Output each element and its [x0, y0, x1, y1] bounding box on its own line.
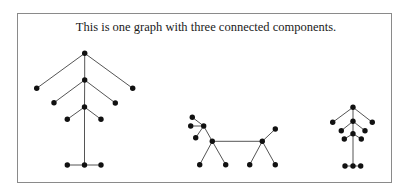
node	[370, 120, 375, 125]
node	[197, 162, 202, 167]
node	[362, 128, 367, 133]
node	[210, 139, 215, 144]
edge	[262, 141, 275, 164]
node	[82, 162, 87, 167]
edge	[85, 107, 102, 119]
node	[188, 123, 193, 128]
node	[223, 162, 228, 167]
node	[339, 128, 344, 133]
node	[247, 162, 252, 167]
node	[359, 136, 364, 141]
edge	[67, 107, 84, 119]
node	[358, 163, 363, 168]
edge	[37, 53, 85, 88]
node	[350, 105, 355, 110]
edge	[353, 107, 372, 122]
node	[98, 117, 103, 122]
node	[65, 162, 70, 167]
edge	[333, 107, 353, 122]
node	[130, 86, 135, 91]
edge	[54, 80, 85, 103]
node	[350, 163, 355, 168]
node	[273, 126, 278, 131]
edge	[200, 141, 213, 164]
node	[350, 119, 355, 124]
edge	[250, 141, 263, 164]
component-middle-graph	[188, 115, 278, 168]
node	[82, 51, 87, 56]
node	[82, 104, 87, 109]
node	[193, 135, 198, 140]
node	[260, 139, 265, 144]
node	[330, 120, 335, 125]
node	[113, 100, 118, 105]
node	[342, 136, 347, 141]
component-right-tree	[330, 105, 375, 169]
node	[273, 162, 278, 167]
edge	[85, 80, 116, 103]
node	[350, 131, 355, 136]
edge	[212, 141, 225, 164]
graph-canvas	[0, 0, 412, 194]
node	[65, 117, 70, 122]
node	[51, 100, 56, 105]
edge	[85, 53, 133, 88]
node	[34, 86, 39, 91]
node	[342, 163, 347, 168]
node	[190, 115, 195, 120]
node	[82, 77, 87, 82]
node	[98, 162, 103, 167]
component-left-tree	[34, 51, 135, 168]
node	[201, 123, 206, 128]
